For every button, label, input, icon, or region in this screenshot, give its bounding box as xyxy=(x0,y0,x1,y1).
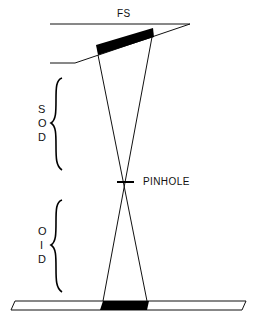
oid-brace xyxy=(51,200,62,292)
sod-label-d: D xyxy=(38,132,46,143)
oid-label-d: D xyxy=(38,254,46,265)
sod-label-o: O xyxy=(38,118,47,129)
pinhole-label: PINHOLE xyxy=(143,177,190,187)
oid-label-o: O xyxy=(38,226,47,237)
ray-right xyxy=(103,37,152,301)
focal-spot-label: FS xyxy=(117,9,131,19)
oid-label-i: I xyxy=(40,240,43,251)
sod-brace xyxy=(51,78,62,170)
diagram-drawing xyxy=(0,0,263,318)
projected-image xyxy=(100,301,149,310)
pinhole-camera-diagram: FS PINHOLE S O D O I D xyxy=(0,0,263,318)
sod-label-s: S xyxy=(38,104,45,115)
focal-spot xyxy=(96,28,154,55)
ray-left xyxy=(98,55,147,301)
